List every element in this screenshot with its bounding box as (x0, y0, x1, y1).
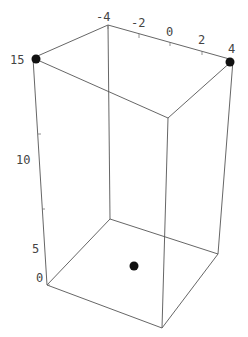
x-tick-label: -4 (96, 10, 110, 24)
data-point (226, 58, 235, 67)
x-tick-label: 2 (198, 33, 205, 47)
z-tick-label: 15 (10, 53, 24, 67)
data-points (32, 55, 235, 271)
3d-scatter-plot: -4 -2 0 2 4 0 5 10 15 (0, 0, 248, 337)
bounding-box (33, 25, 233, 328)
x-tick-label: 0 (166, 25, 173, 39)
z-tick-label: 0 (36, 271, 43, 285)
data-point (32, 55, 41, 64)
z-axis: 0 5 10 15 (10, 53, 50, 285)
z-tick-label: 5 (32, 242, 39, 256)
z-tick-label: 10 (16, 153, 30, 167)
x-axis: -4 -2 0 2 4 (96, 10, 235, 64)
data-point (130, 262, 139, 271)
x-tick-label: -2 (131, 16, 145, 30)
x-tick-label: 4 (228, 42, 235, 56)
